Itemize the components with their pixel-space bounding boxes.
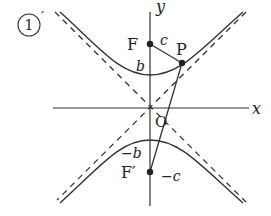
neg-c-label: −c: [161, 168, 181, 184]
focus-lower-label: F′: [121, 163, 136, 182]
y-axis-label: y: [155, 0, 166, 16]
figure-label-number: 1: [25, 17, 34, 33]
diagram-svg: 1 ′ y x O F P F′ c b −b −c: [0, 0, 271, 216]
hyperbola-diagram: 1 ′ y x O F P F′ c b −b −c: [0, 0, 271, 216]
neg-b-label: −b: [121, 145, 142, 161]
focus-upper-dot: [147, 41, 153, 47]
figure-label-prime: ′: [41, 9, 44, 25]
focus-upper-label: F: [127, 35, 138, 54]
c-label: c: [160, 32, 168, 48]
origin-label: O: [155, 113, 167, 131]
b-label: b: [136, 58, 145, 74]
point-p-label: P: [176, 40, 187, 59]
point-p-dot: [179, 60, 185, 66]
focus-lower-dot: [147, 169, 153, 175]
x-axis-label: x: [252, 99, 261, 118]
